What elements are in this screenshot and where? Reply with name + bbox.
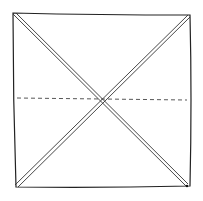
origami-diagram: [0, 0, 203, 201]
corner-mark-br: [186, 185, 188, 187]
